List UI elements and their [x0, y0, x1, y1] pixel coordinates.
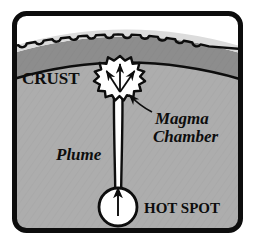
hotspot-diagram: CRUST Magma Chamber Plume HOT SPOT: [0, 0, 258, 250]
plume-label: Plume: [55, 145, 102, 164]
magma-chamber-label-line2: Chamber: [153, 127, 219, 146]
plume-conduit: [114, 92, 123, 200]
scene-content: CRUST Magma Chamber Plume HOT SPOT: [10, 8, 252, 238]
diagram-canvas: CRUST Magma Chamber Plume HOT SPOT: [0, 0, 258, 250]
crust-label: CRUST: [22, 69, 80, 88]
magma-chamber-label-line1: Magma: [154, 109, 209, 128]
hot-spot-label: HOT SPOT: [144, 200, 220, 216]
